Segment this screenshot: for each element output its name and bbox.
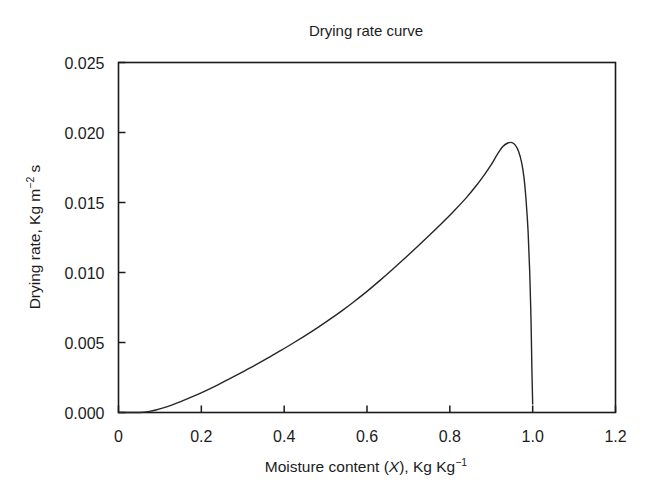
chart-figure: Drying rate curve 0.0000.0050.0100.0150.… — [0, 0, 652, 498]
y-tick-label: 0.015 — [64, 195, 104, 212]
x-tick-label: 0.8 — [439, 428, 461, 445]
y-tick-label: 0.020 — [64, 125, 104, 142]
x-tick-label: 0.4 — [273, 428, 295, 445]
x-tick-label: 0.2 — [190, 428, 212, 445]
x-tick-label: 0.6 — [356, 428, 378, 445]
x-tick-label: 1.0 — [522, 428, 544, 445]
x-axis-label: Moisture content (X), Kg Kg−1 — [265, 456, 468, 475]
y-tick-label: 0.005 — [64, 335, 104, 352]
y-tick-label: 0.010 — [64, 265, 104, 282]
y-tick-label: 0.000 — [64, 405, 104, 422]
drying-rate-chart: Drying rate curve 0.0000.0050.0100.0150.… — [0, 0, 652, 498]
chart-title: Drying rate curve — [309, 22, 423, 39]
x-tick-label: 0 — [114, 428, 123, 445]
y-tick-label: 0.025 — [64, 55, 104, 72]
chart-background — [0, 0, 652, 498]
x-tick-label: 1.2 — [604, 428, 626, 445]
